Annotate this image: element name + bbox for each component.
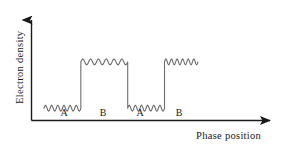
region-label-a1: A — [56, 108, 72, 118]
y-axis-label: Electron density — [15, 7, 26, 127]
x-axis-label: Phase position — [196, 131, 261, 142]
electron-density-figure: Electron density Phase position A B A B — [0, 0, 297, 152]
region-label-a2: A — [132, 108, 148, 118]
electron-density-curve — [44, 59, 198, 111]
region-label-b1: B — [95, 108, 111, 118]
region-label-b2: B — [171, 108, 187, 118]
